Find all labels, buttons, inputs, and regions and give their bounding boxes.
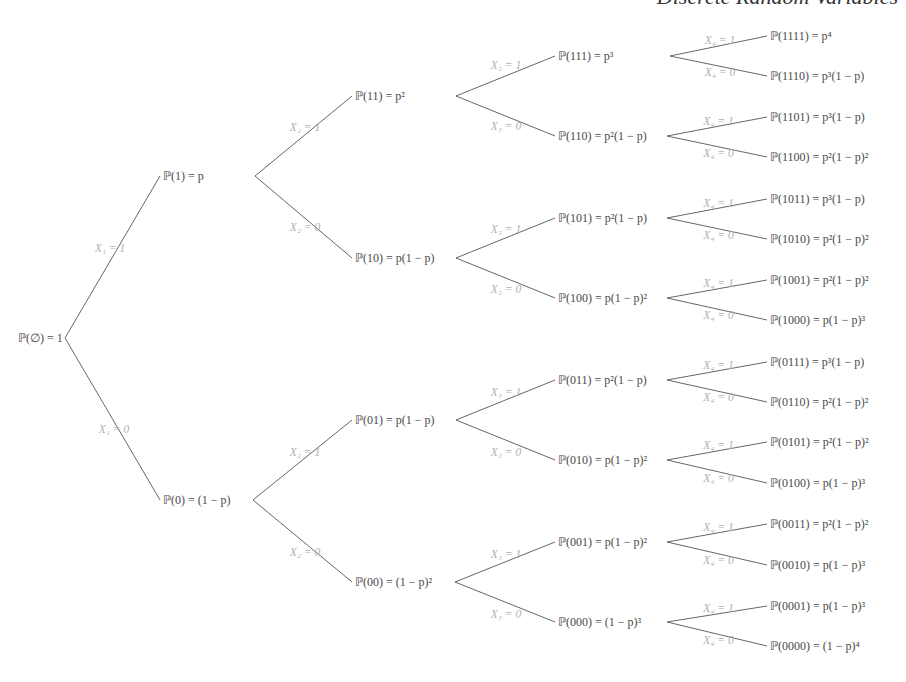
tree-edge-label-1110: X₄ = 0 [705, 66, 735, 78]
tree-edge-label-0001: X₄ = 1 [703, 602, 733, 614]
tree-edge-label-0011: X₄ = 1 [703, 521, 733, 533]
tree-node-01: ℙ(01) = p(1 − p) [355, 413, 435, 428]
tree-edge-label-001: X₃ = 1 [491, 548, 521, 560]
tree-edge-label-0000: X₄ = 0 [703, 634, 733, 646]
tree-edge-label-0110: X₄ = 0 [703, 391, 733, 403]
tree-edge-label-1011: X₄ = 1 [703, 197, 733, 209]
tree-node-1: ℙ(1) = p [163, 169, 204, 184]
tree-node-1111: ℙ(1111) = p⁴ [770, 29, 832, 44]
tree-edge-label-1: X₁ = 1 [95, 242, 125, 254]
tree-node-0001: ℙ(0001) = p(1 − p)³ [770, 599, 865, 614]
tree-node-10: ℙ(10) = p(1 − p) [355, 251, 435, 266]
tree-node-0010: ℙ(0010) = p(1 − p)³ [770, 558, 865, 573]
tree-node-101: ℙ(101) = p²(1 − p) [558, 211, 647, 226]
tree-node-00: ℙ(00) = (1 − p)² [355, 575, 432, 590]
tree-edge-label-0101: X₄ = 1 [703, 439, 733, 451]
tree-edge-label-1101: X₄ = 1 [703, 115, 733, 127]
tree-node-1110: ℙ(1110) = p³(1 − p) [770, 69, 864, 84]
tree-edge-label-111: X₃ = 1 [491, 59, 521, 71]
tree-root-node: ℙ(∅) = 1 [18, 331, 63, 346]
tree-node-0: ℙ(0) = (1 − p) [163, 493, 231, 508]
tree-edge-line [253, 500, 352, 582]
tree-node-1100: ℙ(1100) = p²(1 − p)² [770, 150, 868, 165]
tree-node-1101: ℙ(1101) = p³(1 − p) [770, 110, 865, 125]
tree-edge-label-1001: X₄ = 1 [703, 277, 733, 289]
tree-edge-label-10: X₂ = 0 [290, 221, 320, 233]
tree-edge-label-101: X₃ = 1 [491, 223, 521, 235]
tree-edge-label-00: X₂ = 0 [290, 546, 320, 558]
tree-node-1000: ℙ(1000) = p(1 − p)³ [770, 313, 865, 328]
tree-edge-label-010: X₃ = 0 [491, 446, 521, 458]
tree-edge-label-1100: X₄ = 0 [703, 147, 733, 159]
tree-node-1011: ℙ(1011) = p³(1 − p) [770, 192, 865, 207]
tree-node-0101: ℙ(0101) = p²(1 − p)² [770, 435, 869, 450]
tree-edge-label-0010: X₄ = 0 [703, 554, 733, 566]
tree-edge-line [65, 338, 160, 500]
tree-node-010: ℙ(010) = p(1 − p)² [558, 453, 647, 468]
tree-edge-label-1111: X₄ = 1 [705, 34, 735, 46]
tree-edge-label-1010: X₄ = 0 [703, 229, 733, 241]
tree-edge-label-011: X₃ = 1 [491, 386, 521, 398]
tree-edge-label-01: X₂ = 1 [290, 446, 320, 458]
tree-node-11: ℙ(11) = p² [355, 89, 405, 104]
tree-edge-line [253, 420, 352, 500]
tree-node-0000: ℙ(0000) = (1 − p)⁴ [770, 639, 860, 654]
tree-edge-label-0: X₁ = 0 [99, 423, 129, 435]
tree-node-100: ℙ(100) = p(1 − p)² [558, 291, 647, 306]
tree-edge-line [65, 176, 160, 338]
tree-node-1010: ℙ(1010) = p²(1 − p)² [770, 232, 869, 247]
tree-edge-line [255, 176, 352, 258]
tree-node-0100: ℙ(0100) = p(1 − p)³ [770, 476, 865, 491]
tree-node-111: ℙ(111) = p³ [558, 49, 613, 64]
tree-edge-label-110: X₃ = 0 [491, 120, 521, 132]
tree-node-0111: ℙ(0111) = p³(1 − p) [770, 355, 864, 370]
tree-edge-label-0111: X₄ = 1 [703, 359, 733, 371]
tree-edge-label-11: X₂ = 1 [290, 121, 320, 133]
tree-node-110: ℙ(110) = p²(1 − p) [558, 129, 647, 144]
tree-edge-label-0100: X₄ = 0 [703, 472, 733, 484]
tree-node-001: ℙ(001) = p(1 − p)² [558, 535, 647, 550]
tree-edge-label-000: X₃ = 0 [491, 608, 521, 620]
tree-node-0011: ℙ(0011) = p²(1 − p)² [770, 517, 868, 532]
tree-node-011: ℙ(011) = p²(1 − p) [558, 373, 647, 388]
tree-edge-label-100: X₃ = 0 [491, 283, 521, 295]
tree-node-0110: ℙ(0110) = p²(1 − p)² [770, 395, 868, 410]
tree-node-1001: ℙ(1001) = p²(1 − p)² [770, 273, 869, 288]
probability-tree-lines [0, 0, 906, 682]
tree-edge-line [255, 96, 352, 176]
tree-node-000: ℙ(000) = (1 − p)³ [558, 615, 641, 630]
tree-edge-label-1000: X₄ = 0 [703, 309, 733, 321]
